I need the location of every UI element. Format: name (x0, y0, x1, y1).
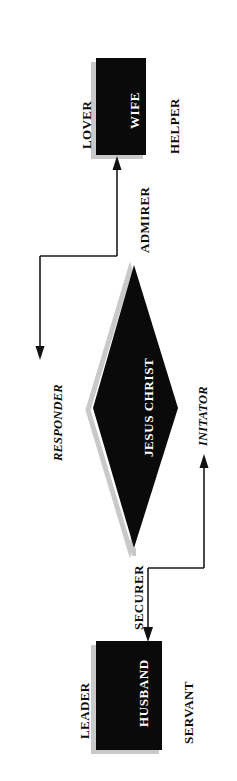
responder-arrowhead-icon (36, 346, 45, 360)
jesus-node-label: JESUS CHRIST (141, 358, 157, 457)
initator-edge-label: INITATOR (196, 386, 211, 446)
responder-edge-label: RESPONDER (51, 384, 66, 461)
securer-edge-label: SECURER (131, 565, 147, 630)
wife-role-helper-label: HELPER (167, 98, 183, 154)
husband-node-label: HUSBAND (136, 659, 152, 727)
wife-node-label: WIFE (127, 92, 143, 129)
wife-role-lover-label: LOVER (79, 101, 95, 149)
husband-role-leader-label: LEADER (77, 682, 93, 739)
admirer-edge-label: ADMIRER (137, 187, 153, 253)
initator-arrowhead-icon (200, 454, 209, 468)
husband-role-servant-label: SERVANT (181, 681, 197, 744)
diagram-canvas: WIFE LOVER HELPER ADMIRER RESPONDER JESU… (0, 0, 237, 781)
jesus-node-diamond[interactable] (93, 265, 178, 548)
husband-node-box[interactable] (96, 641, 162, 750)
